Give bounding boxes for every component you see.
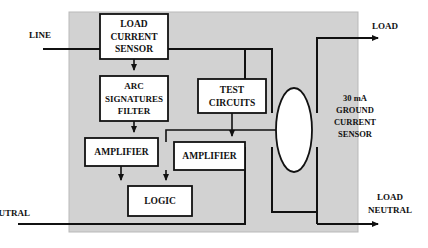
diagram-canvas: LOADCURRENTSENSORARCSIGNATURESFILTERTEST…: [0, 0, 428, 248]
arc-signatures-filter-label-line-3: FILTER: [118, 106, 151, 116]
test-circuits-label-line-2: CIRCUITS: [209, 98, 255, 108]
neutral-terminal: NEUTRAL: [0, 208, 30, 218]
load-current-sensor-label-line-1: LOAD: [120, 19, 148, 29]
block-arc-signatures-filter: ARCSIGNATURESFILTER: [100, 76, 168, 121]
block-amplifier-right: AMPLIFIER: [174, 142, 245, 170]
ground-current-sensor-line-4: SENSOR: [338, 129, 373, 139]
block-load-current-sensor: LOADCURRENTSENSOR: [100, 14, 168, 59]
logic-label-line-1: LOGIC: [144, 196, 176, 206]
ground-current-sensor-line-3: CURRENT: [334, 117, 376, 127]
ground-current-transformer-core: [276, 88, 312, 172]
block-diagram: LOADCURRENTSENSORARCSIGNATURESFILTERTEST…: [0, 0, 428, 248]
load-current-sensor-label-line-2: CURRENT: [111, 32, 159, 42]
arc-signatures-filter-label-line-1: ARC: [124, 81, 144, 91]
load-neutral-terminal-line2: NEUTRAL: [368, 205, 412, 215]
load-neutral-terminal-line1: LOAD: [377, 192, 404, 202]
load-terminal: LOAD: [372, 21, 399, 31]
toroid-layer: [276, 88, 312, 172]
line-terminal: LINE: [29, 30, 51, 40]
block-test-circuits: TESTCIRCUITS: [198, 79, 266, 113]
ground-current-sensor-line-1: 30 mA: [343, 93, 368, 103]
arc-signatures-filter-label-line-2: SIGNATURES: [105, 94, 163, 104]
test-circuits-label-line-1: TEST: [220, 85, 245, 95]
amplifier-right-label-line-1: AMPLIFIER: [182, 151, 237, 161]
block-logic: LOGIC: [128, 186, 192, 216]
ground-current-sensor-line-2: GROUND: [336, 105, 374, 115]
load-current-sensor-label-line-3: SENSOR: [115, 44, 153, 54]
amplifier-left-label-line-1: AMPLIFIER: [94, 147, 149, 157]
block-amplifier-left: AMPLIFIER: [85, 138, 158, 166]
